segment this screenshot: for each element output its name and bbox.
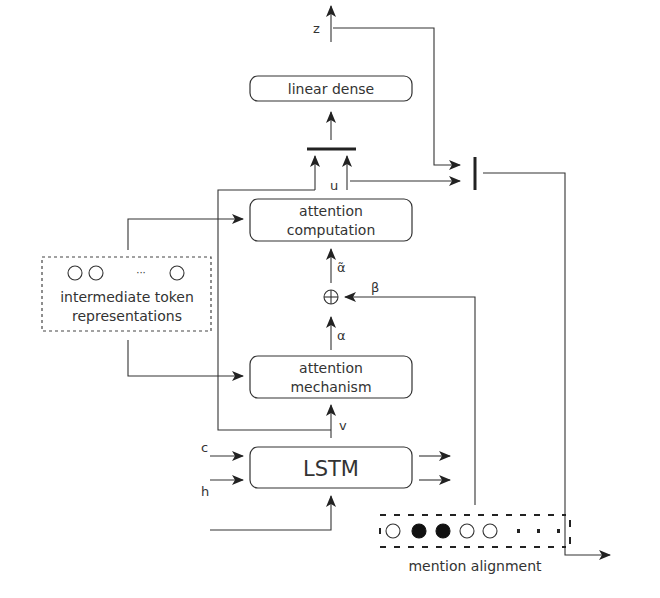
alpha-label: α (337, 328, 346, 343)
token-circle (170, 266, 184, 280)
attention-mechanism-label-1: attention (299, 360, 363, 376)
attention-mechanism-label-2: mechanism (290, 379, 371, 395)
architecture-diagram: z linear dense u attention computation ·… (0, 0, 660, 598)
sum-node (324, 290, 338, 304)
linear-dense-label: linear dense (288, 81, 374, 97)
z-label: z (313, 21, 320, 36)
mention-alignment-node: mention alignment (380, 515, 570, 574)
token-circle (68, 266, 82, 280)
alignment-dot (537, 529, 540, 533)
attention-computation-label-1: attention (299, 203, 363, 219)
linear-dense-node: linear dense (250, 76, 412, 101)
tokens-to-attention-computation-arrow (128, 219, 243, 250)
alignment-dot (557, 529, 560, 533)
v-label: v (339, 418, 347, 433)
alignment-cell-empty (386, 524, 400, 538)
u-label: u (330, 178, 338, 193)
alignment-cell-empty (460, 524, 474, 538)
attention-computation-node: attention computation (250, 199, 412, 241)
alignment-cell-empty (483, 524, 497, 538)
alignment-dot (517, 529, 520, 533)
lstm-node: LSTM (250, 447, 412, 488)
lstm-input-arrow (210, 496, 331, 530)
intermediate-token-representations-node: ··· intermediate token representations (42, 257, 211, 331)
attention-mechanism-node: attention mechanism (250, 356, 412, 398)
ellipsis: ··· (136, 267, 146, 278)
alignment-cell-filled (436, 524, 450, 538)
intermediate-label-2: representations (72, 308, 182, 324)
h-label: h (201, 484, 209, 499)
c-label: c (201, 440, 208, 455)
token-circle (89, 266, 103, 280)
lstm-label: LSTM (303, 457, 359, 481)
z-output-arrow: z (313, 6, 331, 42)
attention-computation-label-2: computation (287, 222, 376, 238)
tokens-to-attention-mechanism-arrow (128, 340, 243, 376)
final-output-arrow (483, 173, 610, 555)
beta-label: β (371, 280, 379, 295)
mention-alignment-label: mention alignment (408, 558, 542, 574)
alpha-tilde-label: α̃ (337, 260, 346, 275)
intermediate-label-1: intermediate token (60, 289, 194, 305)
alignment-cell-filled (412, 524, 426, 538)
